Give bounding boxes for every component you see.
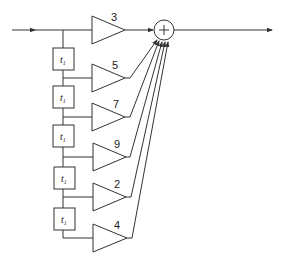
delay-block-2: t1 <box>53 86 74 108</box>
amplifier-3: 7 <box>92 98 125 131</box>
svg-text:4: 4 <box>114 219 120 231</box>
amplifier-6: 4 <box>93 219 127 252</box>
amplifier-2: 5 <box>92 59 125 92</box>
summer-inputs <box>125 30 168 238</box>
fir-filter-diagram: t1 t1 t1 t1 t1 3 5 7 9 2 <box>0 0 285 267</box>
summer-node <box>154 20 174 40</box>
amplifier-1: 3 <box>92 11 125 44</box>
delay-block-1: t1 <box>53 48 74 70</box>
svg-text:2: 2 <box>114 178 120 190</box>
delay-block-5: t1 <box>54 208 75 230</box>
amplifier-4: 9 <box>93 138 126 171</box>
delay-block-3: t1 <box>53 125 74 147</box>
amplifier-5: 2 <box>93 178 126 211</box>
svg-text:9: 9 <box>114 138 120 150</box>
svg-text:7: 7 <box>113 98 119 110</box>
svg-text:3: 3 <box>111 11 117 23</box>
delay-block-4: t1 <box>54 167 75 189</box>
svg-text:5: 5 <box>112 59 118 71</box>
